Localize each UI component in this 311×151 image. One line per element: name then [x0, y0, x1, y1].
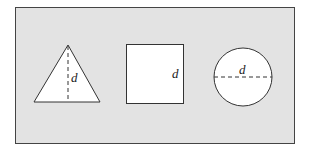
circle-dimension-label: d: [239, 62, 246, 77]
circle-shape: d: [214, 48, 272, 106]
square-dimension-label: d: [172, 66, 179, 81]
square-shape: d: [127, 45, 184, 104]
triangle-dimension-label: d: [71, 70, 78, 85]
shapes-diagram: d d d: [0, 0, 311, 151]
